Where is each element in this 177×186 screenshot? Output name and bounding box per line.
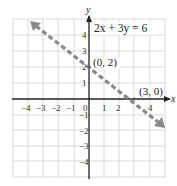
y-tick: −3 bbox=[79, 141, 89, 151]
point-b-label: (3, 0) bbox=[139, 85, 163, 98]
y-tick: 4 bbox=[82, 30, 87, 40]
equation-label: 2x + 3y = 6 bbox=[94, 22, 147, 35]
point-0-2 bbox=[88, 66, 91, 69]
y-tick: 1 bbox=[82, 78, 87, 88]
y-tick: −4 bbox=[79, 157, 89, 167]
y-tick: −1 bbox=[79, 110, 89, 120]
x-axis-label: x bbox=[170, 93, 176, 104]
coordinate-plane: x y −4 −3 −2 −1 0 1 2 4 4 3 2 1 −1 −2 −3… bbox=[0, 0, 177, 186]
x-tick: 2 bbox=[116, 103, 121, 113]
point-a-label: (0, 2) bbox=[93, 56, 117, 69]
x-tick: −4 bbox=[21, 103, 31, 113]
x-tick: −2 bbox=[51, 103, 61, 113]
y-axis-label: y bbox=[85, 4, 91, 15]
point-3-0 bbox=[133, 98, 136, 101]
y-tick: 3 bbox=[82, 46, 87, 56]
x-tick: 1 bbox=[102, 103, 107, 113]
arrowhead-lower-right-icon bbox=[154, 117, 165, 128]
y-tick: −2 bbox=[79, 126, 89, 136]
x-tick: −3 bbox=[36, 103, 46, 113]
x-tick: 4 bbox=[148, 103, 153, 113]
x-tick: −1 bbox=[66, 103, 76, 113]
